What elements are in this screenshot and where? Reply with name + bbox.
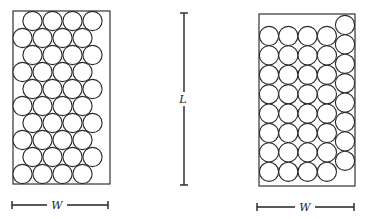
circle <box>335 35 354 54</box>
circle <box>23 11 42 30</box>
circle <box>317 26 336 45</box>
hexagonal-packing-panel <box>13 11 110 184</box>
circle <box>43 45 62 64</box>
circle <box>63 45 82 64</box>
circle <box>33 164 52 183</box>
circle <box>279 46 298 65</box>
circle <box>33 62 52 81</box>
circle <box>73 62 92 81</box>
circle <box>83 113 102 132</box>
circle <box>259 85 278 104</box>
circle <box>73 96 92 115</box>
circle <box>23 113 42 132</box>
circle <box>298 123 317 142</box>
circle <box>13 28 32 47</box>
circle <box>83 11 102 30</box>
circle <box>63 147 82 166</box>
circle <box>53 96 72 115</box>
circle <box>53 164 72 183</box>
circle <box>53 28 72 47</box>
circle <box>317 65 336 84</box>
circle <box>317 104 336 123</box>
circle <box>335 54 354 73</box>
circle <box>279 26 298 45</box>
circle <box>33 130 52 149</box>
circle <box>259 104 278 123</box>
circle <box>298 162 317 181</box>
circle <box>317 46 336 65</box>
circle <box>83 45 102 64</box>
circle <box>23 147 42 166</box>
circle <box>73 164 92 183</box>
circle <box>13 96 32 115</box>
circle <box>259 65 278 84</box>
circle <box>63 11 82 30</box>
circle <box>43 79 62 98</box>
circle <box>83 79 102 98</box>
circle <box>53 130 72 149</box>
circle <box>317 143 336 162</box>
circle <box>317 162 336 181</box>
circle <box>335 151 354 170</box>
circle <box>298 143 317 162</box>
circle <box>335 132 354 151</box>
circle <box>13 164 32 183</box>
circle <box>279 143 298 162</box>
circle <box>279 65 298 84</box>
packing-diagram: W L W <box>0 0 366 219</box>
circle <box>279 123 298 142</box>
circle <box>279 85 298 104</box>
circle <box>317 85 336 104</box>
right-width-label: W <box>299 201 312 214</box>
circle <box>298 85 317 104</box>
circle <box>73 28 92 47</box>
circle <box>259 46 278 65</box>
circle <box>43 11 62 30</box>
circle <box>317 123 336 142</box>
circle <box>298 65 317 84</box>
circle <box>335 15 354 34</box>
circle <box>259 162 278 181</box>
circle <box>63 79 82 98</box>
circle <box>43 113 62 132</box>
square-packing-panel <box>259 14 355 186</box>
circle <box>259 26 278 45</box>
circle <box>33 96 52 115</box>
circle <box>63 113 82 132</box>
circle <box>13 62 32 81</box>
circle <box>73 130 92 149</box>
circle <box>298 104 317 123</box>
circle <box>298 46 317 65</box>
circle <box>23 45 42 64</box>
circle <box>23 79 42 98</box>
length-label: L <box>178 93 186 106</box>
circle <box>33 28 52 47</box>
circle <box>53 62 72 81</box>
circle <box>279 162 298 181</box>
circle <box>259 123 278 142</box>
circle <box>335 74 354 93</box>
circle <box>298 26 317 45</box>
circle <box>43 147 62 166</box>
circle <box>13 130 32 149</box>
left-width-label: W <box>51 199 64 212</box>
circle <box>335 112 354 131</box>
circle <box>83 147 102 166</box>
circle <box>335 93 354 112</box>
circle <box>279 104 298 123</box>
circle <box>259 143 278 162</box>
